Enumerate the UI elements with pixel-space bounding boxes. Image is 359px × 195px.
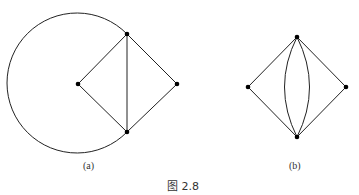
edge-b-curve-right [297,37,310,137]
edge-a-left-top [78,34,127,84]
subfigure-b-graph [248,37,346,137]
node-b-left [246,85,251,90]
figure-caption: 图 2.8 [167,177,199,193]
node-a-top [125,32,130,37]
subfigure-a-label: (a) [83,160,94,171]
figure-canvas [0,0,359,195]
node-b-top [295,35,300,40]
node-b-right [344,85,349,90]
edge-b-left-top [248,37,297,87]
node-a-right [175,82,180,87]
node-a-bottom [125,130,130,135]
edge-a-bottom-right [127,84,177,132]
node-a-left [76,82,81,87]
edge-b-top-right [297,37,346,87]
edge-a-left-bottom [78,84,127,132]
edge-a-big-arc [7,13,127,153]
edge-b-curve-left [285,37,298,137]
edge-a-top-right [127,34,177,84]
subfigure-a-graph [7,13,177,153]
node-b-bottom [295,135,300,140]
edge-b-bottom-right [297,87,346,137]
subfigure-b-label: (b) [289,160,301,171]
edge-b-left-bottom [248,87,297,137]
